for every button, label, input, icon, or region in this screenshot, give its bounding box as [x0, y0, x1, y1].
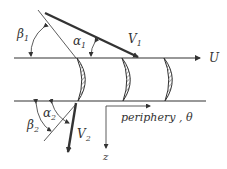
inlet-blade-angle-line — [38, 10, 76, 58]
svg-text:α1: α1 — [73, 34, 86, 50]
blade — [77, 58, 85, 101]
svg-text:V1: V1 — [128, 32, 142, 48]
beta1-arc — [31, 27, 44, 56]
svg-text:V2: V2 — [77, 127, 91, 143]
periphery-label: periphery , θ — [121, 111, 193, 124]
u-label: U — [209, 51, 220, 65]
blade — [164, 58, 172, 101]
alpha1-arc — [91, 42, 95, 56]
svg-text:β1: β1 — [16, 27, 29, 43]
cascade-diagram: β1 α1 V1 U β2 α2 V2 periphery , θ z — [0, 0, 227, 169]
blade — [122, 58, 130, 101]
v2-vector — [68, 103, 76, 152]
svg-text:β2: β2 — [26, 118, 39, 134]
z-label: z — [102, 151, 109, 162]
